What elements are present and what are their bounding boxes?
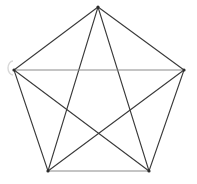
graph-vertex-right bbox=[182, 68, 185, 71]
graph-vertex-top bbox=[96, 5, 99, 8]
graph-vertex-left bbox=[12, 68, 15, 71]
graph-vertex-bottom-right bbox=[147, 169, 150, 172]
figure-background bbox=[0, 0, 197, 184]
graph-vertex-bottom-left bbox=[46, 169, 49, 172]
graph-canvas bbox=[0, 0, 197, 184]
graph-figure bbox=[0, 0, 197, 184]
